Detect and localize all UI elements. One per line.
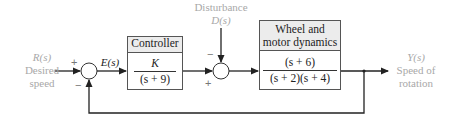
controller-transfer-function: K (s + 9) [128,53,182,90]
output-desc-2: rotation [390,77,442,90]
summing-junction-1 [81,63,97,79]
plant-title-line1: Wheel and [260,23,340,36]
output-desc-1: Speed of [390,64,442,77]
output-label: Y(s) Speed of rotation [390,51,442,90]
plant-title-line2: motor dynamics [260,36,340,49]
error-signal-label: E(s) [99,56,121,69]
summing-junction-2 [213,63,229,79]
sum2-plus-sign: + [205,77,211,89]
plant-block: Wheel and motor dynamics (s + 6) (s + 2)… [259,20,341,90]
plant-numerator: (s + 6) [281,56,319,69]
disturbance-text: Disturbance [191,1,251,14]
controller-denominator: (s + 9) [140,73,170,86]
sum1-minus-sign: − [75,79,81,91]
controller-numerator: K [147,57,163,70]
disturbance-label: Disturbance D(s) [191,1,251,27]
plant-denominator: (s + 2)(s + 4) [270,72,330,85]
controller-block: Controller K (s + 9) [127,36,183,90]
sum2-minus-sign: − [207,48,213,60]
fraction-bar [134,71,176,72]
plant-transfer-function: (s + 6) (s + 2)(s + 4) [260,51,340,89]
controller-title: Controller [128,37,182,53]
sum1-plus-sign: + [71,56,77,68]
plant-title: Wheel and motor dynamics [260,21,340,51]
disturbance-signal: D(s) [191,14,251,27]
output-signal: Y(s) [390,51,442,64]
input-desc-2: speed [22,77,62,90]
input-signal: R(s) [22,51,62,64]
input-desc-1: Desired [22,64,62,77]
input-label: R(s) Desired speed [22,51,62,90]
fraction-bar [263,70,337,71]
